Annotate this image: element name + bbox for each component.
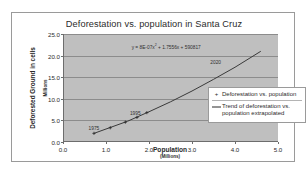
chart-frame: Deforestation vs. population in Santa Cr… [11, 12, 295, 162]
data-point-marker [124, 121, 127, 124]
x-tick-label: 4.0 [231, 146, 240, 153]
point-label-1975: 1975 [89, 125, 100, 130]
x-tick-label: 2.0 [145, 146, 154, 153]
x-tick-mark [63, 142, 64, 144]
y-tick-label: 0.0 [51, 139, 60, 146]
equation-part-1: y = 8E-07x [132, 45, 155, 50]
x-tick-label: 5.0 [274, 146, 283, 153]
chart-page: Deforestation vs. population in Santa Cr… [0, 0, 307, 177]
equation-part-2: + 1.7556x + 590817 [157, 45, 201, 50]
point-label-1995: 1995 [130, 111, 141, 116]
legend-separator [212, 100, 302, 101]
y-axis-title: Deforested Ground in cells [29, 47, 36, 129]
legend-item-scatter[interactable]: + Deforestation vs. population [211, 91, 303, 99]
point-label-2020: 2020 [210, 59, 221, 64]
x-tick-label: 0.0 [59, 146, 68, 153]
y-tick-label: 15.0 [48, 74, 60, 81]
x-tick-label: 1.0 [102, 146, 111, 153]
legend-label-trend: Trend of deforestation vs. population ex… [222, 103, 303, 118]
chart-title: Deforestation vs. population in Santa Cr… [12, 19, 296, 29]
data-point-marker [92, 132, 95, 135]
plus-marker-icon: + [211, 91, 222, 99]
x-axis-subtitle: (Millions) [160, 154, 180, 159]
y-tick-label: 10.0 [48, 95, 60, 102]
x-tick-mark [106, 142, 107, 144]
y-tick-label: 20.0 [48, 52, 60, 59]
x-tick-mark [235, 142, 236, 144]
y-axis-subtitle: Millions [43, 79, 48, 96]
y-tick-label: 25.0 [48, 31, 60, 38]
legend-label-scatter: Deforestation vs. population [222, 91, 296, 99]
x-axis-title: Population [153, 146, 187, 153]
x-tick-mark [192, 142, 193, 144]
line-marker-icon [211, 103, 222, 108]
chart-legend[interactable]: + Deforestation vs. population Trend of … [208, 87, 306, 123]
x-tick-mark [278, 142, 279, 144]
x-tick-label: 3.0 [188, 146, 197, 153]
legend-item-trend[interactable]: Trend of deforestation vs. population ex… [211, 103, 303, 118]
y-tick-label: 5.0 [51, 117, 60, 124]
equation-annotation: y = 8E-07x2 + 1.7556x + 590817 [132, 43, 201, 50]
x-tick-mark [149, 142, 150, 144]
